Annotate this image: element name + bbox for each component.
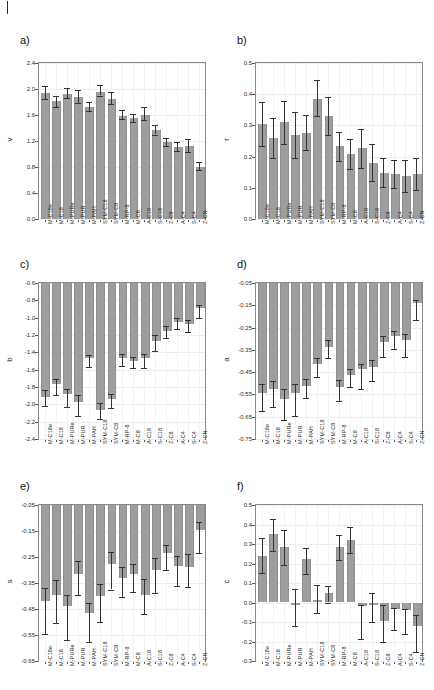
- y-axis-tick-label: 0.4: [12, 190, 35, 196]
- x-axis-tick-mark: [144, 220, 145, 222]
- x-axis-tick-mark: [100, 662, 101, 664]
- error-bar-cap: [314, 377, 320, 378]
- x-axis-tick-label: A-C18: [146, 208, 152, 224]
- error-bar-cap: [174, 318, 180, 319]
- y-axis-tick-mark: [252, 505, 255, 506]
- y-axis-tick-label: -0.8: [12, 297, 35, 303]
- bar: [336, 283, 345, 387]
- x-axis-tick-mark: [111, 220, 112, 222]
- x-axis-tick-mark: [350, 220, 351, 222]
- error-bar-cap: [303, 574, 309, 575]
- error-bar-cap: [141, 107, 147, 108]
- error-bar: [155, 125, 156, 134]
- panel-letter-f: f): [237, 480, 244, 492]
- error-bar-cap: [185, 587, 191, 588]
- x-axis-tick-mark: [317, 440, 318, 442]
- x-axis-tick-mark: [122, 662, 123, 664]
- error-bar-cap: [152, 125, 158, 126]
- plot-area-f: [255, 504, 423, 662]
- error-bar: [416, 158, 417, 190]
- x-axis-tick-mark: [350, 662, 351, 664]
- y-axis-tick-mark: [252, 583, 255, 584]
- error-bar-cap: [108, 552, 114, 553]
- x-axis-tick-mark: [350, 440, 351, 442]
- error-bar: [394, 331, 395, 349]
- error-bar-cap: [130, 357, 136, 358]
- error-bar-cap: [75, 395, 81, 396]
- y-axis-tick-mark: [35, 141, 38, 142]
- x-axis-tick-label: M-C18e: [264, 424, 270, 444]
- error-bar: [177, 556, 178, 586]
- error-bar-cap: [281, 530, 287, 531]
- bar: [152, 283, 161, 341]
- x-axis-tick-mark: [394, 662, 395, 664]
- y-axis-tick-mark: [252, 544, 255, 545]
- x-axis-tick-label: S-C18: [374, 650, 380, 666]
- error-bar-cap: [270, 519, 276, 520]
- error-bar-cap: [358, 129, 364, 130]
- error-bar: [100, 85, 101, 95]
- x-axis-tick-mark: [273, 440, 274, 442]
- x-axis-tick-label: Z-CN: [202, 652, 208, 666]
- x-axis-tick-mark: [416, 662, 417, 664]
- x-axis-tick-mark: [177, 220, 178, 222]
- error-bar-cap: [259, 384, 265, 385]
- error-bar: [262, 384, 263, 411]
- x-axis-tick-mark: [262, 440, 263, 442]
- x-axis-tick-mark: [273, 662, 274, 664]
- bar: [152, 130, 161, 219]
- x-axis-tick-mark: [122, 440, 123, 442]
- error-bar-cap: [97, 622, 103, 623]
- x-axis-tick-label: Z-CN: [202, 210, 208, 224]
- error-bar-cap: [391, 349, 397, 350]
- x-axis-tick-label: M-C18e: [264, 646, 270, 666]
- x-axis-tick-label: S-C4: [408, 653, 414, 666]
- y-axis-tick-label: -0.35: [12, 580, 35, 586]
- panel-f: f)-0.3-0.2-0.10.00.10.20.30.40.5cM-C18eM…: [217, 466, 434, 690]
- x-axis-tick-mark: [361, 220, 362, 222]
- x-axis-tick-mark: [328, 220, 329, 222]
- x-gridline: [394, 505, 395, 661]
- x-axis-tick-label: SYM-C18: [102, 199, 108, 224]
- y-axis-tick-mark: [35, 557, 38, 558]
- y-axis-tick-mark: [252, 305, 255, 306]
- error-bar-cap: [325, 586, 331, 587]
- error-bar-cap: [413, 320, 419, 321]
- error-bar: [122, 110, 123, 118]
- x-axis-tick-mark: [339, 662, 340, 664]
- y-axis-tick-mark: [35, 635, 38, 636]
- bar: [258, 283, 267, 393]
- x-axis-tick-label: SYM-C18: [102, 641, 108, 666]
- error-bar-cap: [97, 85, 103, 86]
- y-axis-label-f: c: [222, 575, 231, 589]
- error-bar-cap: [119, 366, 125, 367]
- error-bar-cap: [86, 102, 92, 103]
- bar: [63, 94, 72, 219]
- y-axis-label-b: r: [222, 133, 231, 147]
- error-bar-cap: [259, 146, 265, 147]
- error-bar-cap: [152, 558, 158, 559]
- x-axis-tick-label: M-PAH: [91, 648, 97, 666]
- plot-area-b: [255, 62, 423, 220]
- error-bar-cap: [86, 355, 92, 356]
- bar: [280, 283, 289, 399]
- error-bar: [372, 593, 373, 622]
- x-axis-tick-mark: [328, 440, 329, 442]
- bar: [130, 283, 139, 361]
- error-bar-cap: [119, 110, 125, 111]
- bar: [185, 505, 194, 567]
- x-axis-tick-mark: [111, 662, 112, 664]
- y-axis-tick-mark: [35, 583, 38, 584]
- x-axis-tick-label: M-C8: [352, 210, 358, 224]
- error-bar-cap: [380, 642, 386, 643]
- error-bar-cap: [163, 146, 169, 147]
- error-bar: [188, 320, 189, 332]
- bar: [96, 505, 105, 596]
- panel-letter-e: e): [20, 480, 30, 492]
- error-bar: [361, 129, 362, 169]
- x-axis-tick-mark: [188, 220, 189, 222]
- error-bar-cap: [325, 603, 331, 604]
- error-bar-cap: [292, 626, 298, 627]
- x-axis-tick-label: M-C18e: [47, 204, 53, 224]
- x-axis-tick-mark: [394, 220, 395, 222]
